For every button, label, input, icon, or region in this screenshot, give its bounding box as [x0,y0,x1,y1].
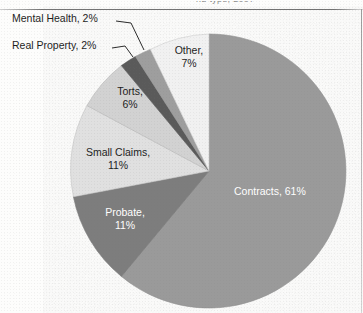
slice-label-contracts: Contracts, 61% [234,185,306,198]
chart-page: nd type, 2007 [0,0,363,313]
slice-label-probate: Probate, 11% [91,206,159,231]
slice-label-real-property-text: Real Property, 2% [12,39,96,51]
slice-label-small-claims-value: 11% [66,159,170,172]
slice-label-small-claims-name: Small Claims, [66,146,170,159]
slice-label-torts-name: Torts, [99,85,161,98]
leader-line-real-property [112,46,133,57]
slice-label-torts: Torts, 6% [99,85,161,110]
slice-label-real-property: Real Property, 2% [12,39,96,52]
slice-label-probate-value: 11% [91,219,159,232]
slice-label-mental-health-text: Mental Health, 2% [12,12,98,24]
slice-label-small-claims: Small Claims, 11% [66,146,170,171]
slice-label-mental-health: Mental Health, 2% [12,12,98,25]
slice-label-other-name: Other, [161,44,217,57]
slice-label-other: Other, 7% [161,44,217,69]
slice-label-torts-value: 6% [99,98,161,111]
slice-label-contracts-text: Contracts, 61% [234,185,306,197]
slice-label-probate-name: Probate, [91,206,159,219]
slice-label-other-value: 7% [161,57,217,70]
leader-line-mental-health [116,21,144,50]
